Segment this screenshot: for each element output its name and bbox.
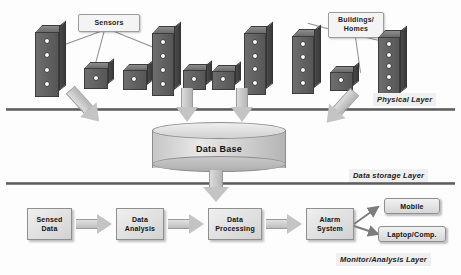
- callout-sensors-label: Sensors: [94, 19, 123, 28]
- physical-layer-tag: Physical Layer: [373, 93, 436, 106]
- bldg-5-dot: [387, 86, 391, 90]
- process-box-data-processing[interactable]: Data Processing: [208, 208, 262, 240]
- database-cylinder[interactable]: Data Base: [152, 122, 286, 172]
- connector-alarm-to-laptop: [354, 226, 378, 234]
- box-5-dot: [339, 78, 343, 82]
- arrow-analysis-to-processing: [168, 214, 204, 234]
- arrow-shaft: [76, 219, 98, 229]
- bldg-3-dot: [253, 67, 257, 71]
- bldg-4-dot: [301, 42, 305, 46]
- output-box-mobile[interactable]: Mobile: [384, 198, 440, 214]
- arrow-shaft: [168, 219, 190, 229]
- callout-sensors[interactable]: Sensors: [78, 14, 140, 32]
- output-box-laptop[interactable]: Laptop/Comp.: [378, 226, 446, 242]
- arrow-shaft: [181, 88, 193, 108]
- bldg-3-dot: [253, 40, 257, 44]
- bldg-5-dot: [387, 53, 391, 57]
- box-1-side-face: [108, 58, 114, 84]
- callout-buildings-label-line2: Homes: [344, 25, 368, 34]
- callout-buildings-label-line1: Buildings/: [338, 16, 374, 25]
- process-box-sensed-data[interactable]: Sensed Data: [27, 208, 72, 240]
- bldg-5-dot: [387, 64, 391, 68]
- bldg-3-side-face: [266, 22, 273, 89]
- bldg-2-dot: [161, 54, 165, 58]
- sensed-data-line1: Sensed: [36, 215, 62, 224]
- arrow-shaft: [266, 219, 288, 229]
- alarm-system-line1: Alarm: [320, 215, 341, 224]
- arrow-physical-to-db-left: [62, 82, 108, 129]
- data-processing-line2: Processing: [215, 224, 255, 233]
- database-label: Data Base: [152, 139, 286, 159]
- node-bldg-4[interactable]: [292, 36, 314, 94]
- bldg-1-side-face: [59, 21, 66, 91]
- arrow-head: [231, 107, 253, 122]
- bldg-2-dot: [161, 40, 165, 44]
- laptop-label: Laptop/Comp.: [387, 231, 436, 238]
- arrow-head: [203, 187, 229, 202]
- arrow-shaft: [236, 88, 248, 108]
- bldg-3-dot: [253, 54, 257, 58]
- bldg-1-dot: [45, 82, 49, 86]
- box-1-dot: [94, 76, 98, 80]
- bldg-5-side-face: [400, 26, 407, 93]
- bldg-5-dot: [387, 75, 391, 79]
- diagram-canvas: Sensors Buildings/ Homes: [0, 0, 461, 275]
- database-top-ellipse: [152, 122, 286, 139]
- bldg-4-dot: [301, 55, 305, 59]
- arrow-db-to-monitor: [203, 170, 229, 202]
- data-analysis-line2: Analysis: [125, 224, 155, 233]
- arrow-head: [287, 214, 302, 234]
- arrow-physical-to-db-mid2: [231, 88, 253, 122]
- box-5-side-face: [353, 62, 359, 86]
- bldg-1-dot: [45, 53, 49, 57]
- bldg-2-side-face: [174, 22, 181, 90]
- arrow-shaft: [209, 170, 223, 188]
- bldg-4-dot: [301, 81, 305, 85]
- arrow-processing-to-alarm: [266, 214, 302, 234]
- process-box-data-analysis[interactable]: Data Analysis: [116, 208, 164, 240]
- node-box-1[interactable]: [84, 68, 108, 89]
- bldg-4-dot: [301, 68, 305, 72]
- arrow-head: [189, 214, 204, 234]
- process-box-alarm-system[interactable]: Alarm System: [306, 208, 354, 240]
- data-processing-line1: Data: [227, 215, 243, 224]
- callout-buildings-homes[interactable]: Buildings/ Homes: [328, 12, 384, 38]
- connector-alarm-to-mobile: [354, 207, 378, 224]
- storage-layer-divider: [6, 182, 455, 185]
- alarm-system-line2: System: [317, 224, 343, 233]
- node-box-3[interactable]: [183, 70, 206, 90]
- box-3-dot: [192, 77, 196, 81]
- mobile-label: Mobile: [400, 203, 423, 210]
- monitor-layer-tag: Monitor/Analysis Layer: [336, 253, 431, 266]
- bldg-3-dot: [253, 81, 257, 85]
- bldg-4-side-face: [314, 25, 321, 88]
- node-bldg-2[interactable]: [152, 33, 174, 96]
- arrow-head: [97, 214, 112, 234]
- bldg-2-dot: [161, 68, 165, 72]
- box-4-side-face: [235, 61, 241, 85]
- arrow-physical-to-db-mid1: [176, 88, 198, 122]
- storage-layer-tag: Data storage Layer: [349, 169, 428, 182]
- arrow-sensed-to-analysis: [76, 214, 112, 234]
- box-4-dot: [221, 77, 225, 81]
- node-bldg-5[interactable]: [378, 37, 400, 99]
- sensed-data-line2: Data: [42, 224, 58, 233]
- node-bldg-1[interactable]: [35, 32, 59, 97]
- data-analysis-line1: Data: [132, 215, 148, 224]
- bldg-1-dot: [45, 68, 49, 72]
- node-bldg-3[interactable]: [244, 33, 266, 95]
- bldg-5-dot: [387, 42, 391, 46]
- node-box-2[interactable]: [123, 70, 147, 90]
- arrow-head: [176, 107, 198, 122]
- bldg-2-dot: [161, 82, 165, 86]
- box-2-dot: [132, 77, 136, 81]
- bldg-1-dot: [45, 39, 49, 43]
